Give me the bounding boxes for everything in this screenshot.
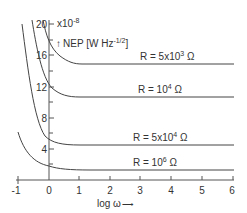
x-tick-labels: -1 0 1 2 3 4 5 6: [12, 185, 236, 196]
label-r-1e4: R = 104 Ω: [138, 83, 182, 95]
svg-text:4: 4: [168, 185, 174, 196]
y-tick-labels: 4 8 12 16 20: [36, 19, 48, 155]
svg-text:8: 8: [41, 113, 47, 124]
svg-text:5: 5: [199, 185, 205, 196]
svg-text:20: 20: [36, 19, 48, 30]
svg-text:2: 2: [107, 185, 113, 196]
label-r-5e4: R = 5x104 Ω: [133, 131, 188, 143]
curve-r-1e4: [32, 20, 234, 97]
y-multiplier: x10-8: [57, 17, 79, 29]
svg-text:3: 3: [137, 185, 143, 196]
label-r-1e6: R = 106 Ω: [133, 156, 177, 168]
svg-text:6: 6: [229, 185, 235, 196]
svg-text:12: 12: [36, 82, 48, 93]
svg-text:0: 0: [46, 185, 52, 196]
nep-chart: -1 0 1 2 3 4 5 6 4 8 12 16 20 x10-8 ↑NEP…: [0, 0, 247, 213]
x-axis-label: log ω⟶: [97, 198, 134, 209]
svg-text:-1: -1: [12, 185, 21, 196]
label-r-5e3: R = 5x103 Ω: [140, 50, 195, 62]
svg-text:1: 1: [76, 185, 82, 196]
y-axis-label: ↑NEP [W Hz-1/2]: [56, 37, 128, 49]
svg-text:4: 4: [41, 144, 47, 155]
